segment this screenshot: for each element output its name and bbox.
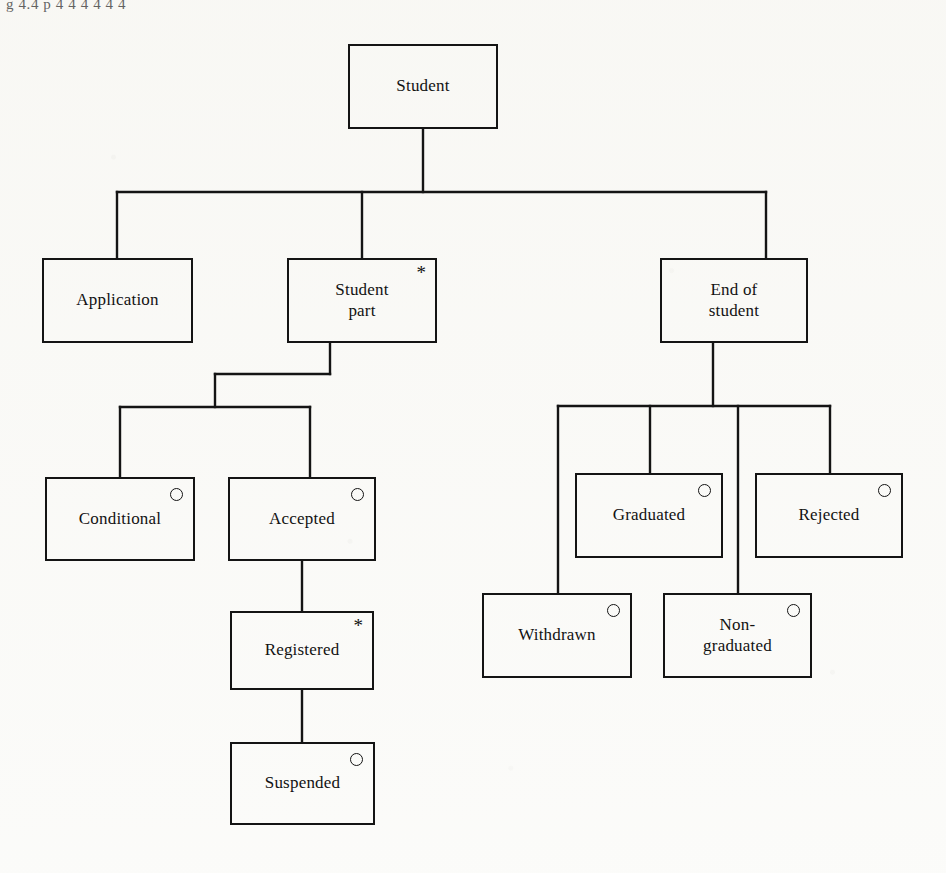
node-student-part-label: Student part xyxy=(329,280,394,321)
node-withdrawn[interactable]: Withdrawn xyxy=(482,593,632,678)
selection-circle-icon xyxy=(787,604,800,617)
node-end-of-student-label: End of student xyxy=(703,280,766,321)
selection-circle-icon xyxy=(607,604,620,617)
node-application-label: Application xyxy=(70,290,164,311)
node-application[interactable]: Application xyxy=(42,258,193,343)
node-graduated[interactable]: Graduated xyxy=(575,473,723,558)
node-suspended-label: Suspended xyxy=(259,773,346,794)
node-graduated-label: Graduated xyxy=(607,505,692,526)
iteration-asterisk-icon: * xyxy=(354,616,364,635)
selection-circle-icon xyxy=(351,488,364,501)
node-student-label: Student xyxy=(390,76,455,97)
node-student[interactable]: Student xyxy=(348,44,498,129)
node-non-graduated-label: Non- graduated xyxy=(697,615,778,656)
node-withdrawn-label: Withdrawn xyxy=(512,625,602,646)
node-conditional[interactable]: Conditional xyxy=(45,477,195,561)
node-non-graduated[interactable]: Non- graduated xyxy=(663,593,812,678)
node-registered[interactable]: Registered * xyxy=(230,611,374,690)
node-rejected[interactable]: Rejected xyxy=(755,473,903,558)
selection-circle-icon xyxy=(170,488,183,501)
node-suspended[interactable]: Suspended xyxy=(230,742,375,825)
node-rejected-label: Rejected xyxy=(792,505,865,526)
connector-lines xyxy=(0,0,946,873)
node-accepted-label: Accepted xyxy=(263,509,341,530)
diagram-page: g 4.4 p 4 4 4 4 4 4 xyxy=(0,0,946,873)
node-registered-label: Registered xyxy=(259,640,346,661)
selection-circle-icon xyxy=(350,753,363,766)
node-end-of-student[interactable]: End of student xyxy=(660,258,808,343)
node-conditional-label: Conditional xyxy=(73,509,167,530)
selection-circle-icon xyxy=(878,484,891,497)
iteration-asterisk-icon: * xyxy=(417,263,427,282)
selection-circle-icon xyxy=(698,484,711,497)
node-accepted[interactable]: Accepted xyxy=(228,477,376,561)
node-student-part[interactable]: Student part * xyxy=(287,258,437,343)
